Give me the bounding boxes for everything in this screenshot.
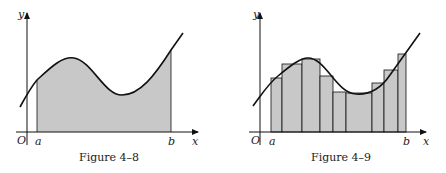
x-label: x: [423, 135, 430, 148]
x-label: x: [192, 135, 199, 148]
origin-label: O: [251, 134, 260, 147]
y-label: y: [252, 8, 260, 21]
figures-canvas: y x O a b Figure 4–8 y x O a b Figure 4–…: [0, 0, 446, 173]
b-label: b: [403, 135, 410, 148]
caption: Figure 4–8: [79, 151, 139, 164]
figure-4-9: y x O a b Figure 4–9: [249, 8, 430, 164]
a-label: a: [269, 135, 276, 148]
caption: Figure 4–9: [311, 151, 371, 164]
figure-4-8: y x O a b Figure 4–8: [16, 8, 199, 164]
a-label: a: [35, 135, 42, 148]
b-label: b: [168, 135, 175, 148]
origin-label: O: [17, 134, 26, 147]
y-label: y: [17, 8, 25, 21]
